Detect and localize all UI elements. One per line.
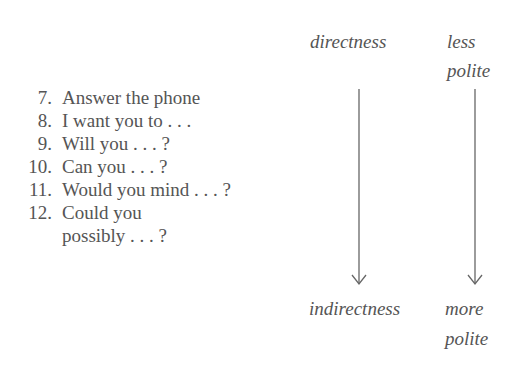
directness-arrow-icon (352, 89, 366, 284)
scale-arrows (0, 0, 522, 366)
politeness-arrow-icon (468, 89, 482, 284)
